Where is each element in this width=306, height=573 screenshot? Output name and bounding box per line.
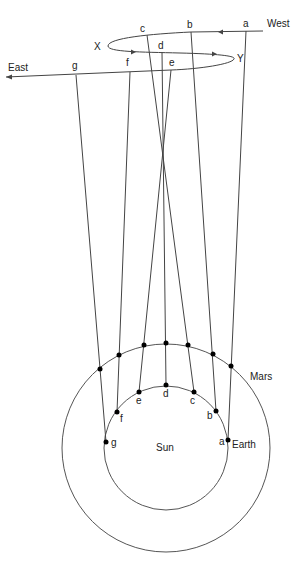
earth-label-a: a (219, 436, 225, 447)
earth-label-e: e (136, 395, 142, 406)
sightline-f (117, 72, 130, 412)
sky-label-d: d (158, 40, 164, 51)
sky-label-f: f (126, 57, 129, 68)
sightline-c (147, 35, 194, 392)
west-label: West (267, 18, 290, 29)
sun-label: Sun (156, 442, 174, 453)
earth-label-f: f (120, 413, 123, 424)
arrow-east (6, 75, 12, 80)
earth-label-g: g (111, 437, 117, 448)
east-label: East (8, 62, 28, 73)
sky-label-c: c (140, 23, 145, 34)
sightline-g (76, 75, 106, 442)
earth-label: Earth (232, 439, 256, 450)
sky-label-g: g (72, 60, 78, 71)
sky-label-a: a (243, 18, 249, 29)
sightline-d (162, 52, 166, 385)
arrow-west (218, 30, 223, 35)
loop-label-y: Y (237, 53, 244, 64)
arrow-loop-1 (131, 50, 136, 55)
retrograde-diagram: West East X Y a b c d e f g a b c d e f … (0, 0, 306, 573)
loop-label-x: X (94, 41, 101, 52)
earth-label-c: c (190, 395, 195, 406)
apparent-path (6, 31, 263, 77)
arrow-loop-2 (212, 52, 217, 57)
earth-label-d: d (163, 388, 169, 399)
earth-label-b: b (207, 410, 213, 421)
sky-label-e: e (169, 57, 175, 68)
sky-label-b: b (187, 19, 193, 30)
mars-label: Mars (250, 371, 272, 382)
